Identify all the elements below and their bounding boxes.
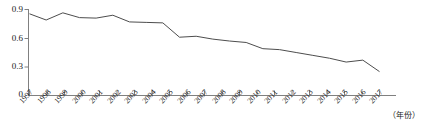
chart-plot-area [0,0,429,132]
line-chart: 0.9 0.6 0.3 0 1997 1998 1999 2000 2001 2… [0,0,429,132]
x-axis-title: （年份） [388,112,420,120]
y-tick-label-1: 0.6 [0,34,23,43]
y-tick-label-0: 0.9 [0,5,23,14]
y-tick-label-2: 0.3 [0,62,23,71]
y-axis-ticks [25,10,29,68]
data-series-line [30,13,380,72]
